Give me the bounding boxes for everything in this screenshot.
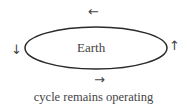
- earth-label: Earth: [77, 40, 105, 56]
- caption: cycle remains operating: [0, 90, 187, 105]
- arrow-down-icon: ↓: [11, 43, 22, 56]
- arrow-right-icon: →: [94, 73, 105, 86]
- arrow-up-icon: ↑: [169, 39, 180, 52]
- arrow-left-icon: ←: [88, 5, 99, 18]
